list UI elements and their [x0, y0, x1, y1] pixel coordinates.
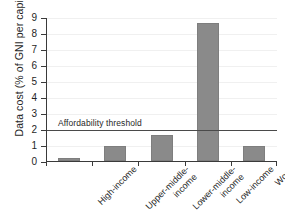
- y-axis-line: [46, 18, 47, 162]
- x-axis-label: Low-income: [234, 164, 276, 206]
- x-axis-label: Lower-middle-income: [190, 164, 245, 219]
- gridline: [47, 114, 277, 115]
- x-axis-line: [46, 161, 277, 162]
- bar: [243, 146, 265, 161]
- x-axis-label: High-income: [96, 164, 139, 207]
- y-axis-tick: 2: [41, 130, 46, 131]
- y-axis-tick-label: 2: [31, 125, 37, 135]
- y-axis-tick: 1: [41, 146, 46, 147]
- y-axis-title: Data cost (% of GNI per capita): [13, 0, 25, 137]
- y-axis-tick-label: 7: [31, 45, 37, 55]
- x-axis-label: World: [273, 164, 285, 188]
- y-axis-tick-label: 8: [31, 29, 37, 39]
- y-axis-tick: 9: [41, 18, 46, 19]
- x-axis-labels: High-incomeUpper-middle-incomeLower-midd…: [46, 164, 277, 221]
- y-axis-tick-label: 5: [31, 77, 37, 87]
- gridline: [47, 82, 277, 83]
- y-axis-tick-label: 1: [31, 141, 37, 151]
- y-axis-tick-label: 4: [31, 93, 37, 103]
- y-axis-tick: 5: [41, 82, 46, 83]
- bar: [104, 146, 126, 161]
- x-axis-label-line: High-income: [96, 164, 139, 207]
- bar: [58, 158, 80, 161]
- y-axis-tick: 3: [41, 114, 46, 115]
- y-axis-tick: 8: [41, 34, 46, 35]
- affordability-threshold-label: Affordability threshold: [58, 118, 142, 128]
- y-axis-tick-label: 9: [31, 13, 37, 23]
- bar: [151, 135, 173, 161]
- y-axis-tick-label: 0: [31, 157, 37, 167]
- bar: [197, 23, 219, 161]
- y-axis-tick: 6: [41, 66, 46, 67]
- x-axis-label-line: Low-income: [234, 164, 275, 205]
- gridline: [47, 98, 277, 99]
- gridline: [47, 66, 277, 67]
- x-axis-label-line: World: [273, 164, 285, 188]
- plot-area: 0123456789 Affordability threshold: [46, 18, 277, 162]
- y-axis-tick: 4: [41, 98, 46, 99]
- bar-chart: Data cost (% of GNI per capita) 01234567…: [0, 0, 285, 221]
- y-axis-tick-label: 3: [31, 109, 37, 119]
- gridline: [47, 18, 277, 19]
- gridline: [47, 50, 277, 51]
- x-axis-label: Upper-middle-income: [144, 164, 199, 219]
- y-axis-tick-label: 6: [31, 61, 37, 71]
- y-axis-tick: 7: [41, 50, 46, 51]
- gridline: [47, 34, 277, 35]
- affordability-threshold-line: [47, 130, 277, 131]
